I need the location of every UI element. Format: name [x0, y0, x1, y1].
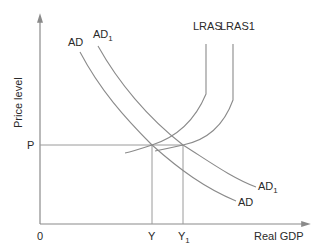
output-y1-label: Y1: [178, 230, 190, 245]
x-axis-label: Real GDP: [254, 230, 304, 242]
lras-label: LRAS: [193, 20, 222, 32]
price-p-label: P: [27, 139, 34, 151]
y-axis-label: Price level: [12, 77, 24, 128]
ad1-label-bottom: AD1: [258, 180, 278, 195]
origin-label: 0: [37, 230, 43, 242]
lras-curve: [125, 44, 206, 153]
lras1-curve: [155, 44, 233, 151]
output-y-label: Y: [148, 230, 156, 242]
economics-diagram: AD AD1 LRAS LRAS1 AD1 AD P 0 Y Y1 Real G…: [0, 0, 321, 252]
ad1-label-top: AD1: [93, 28, 113, 43]
lras1-label: LRAS1: [220, 20, 255, 32]
ad-label-top: AD: [68, 36, 83, 48]
ad-curve: [80, 52, 236, 201]
ad-label-bottom: AD: [238, 196, 253, 208]
